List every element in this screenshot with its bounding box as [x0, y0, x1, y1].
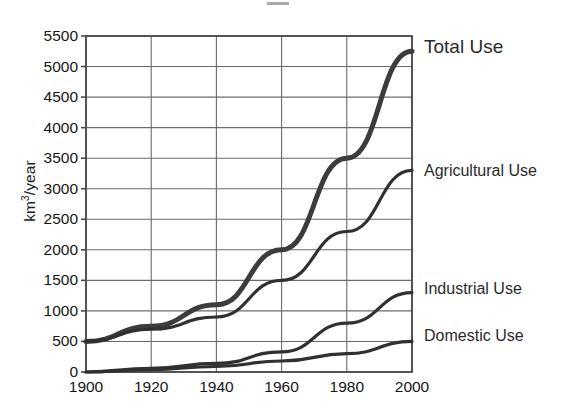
series-line-agricultural-use [86, 170, 412, 341]
series-label-industrial-use: Industrial Use [424, 280, 522, 298]
series-label-agricultural-use: Agricultural Use [424, 162, 537, 180]
plot-area [0, 0, 568, 417]
water-use-line-chart: km3/year 0500100015002000250030003500400… [0, 0, 568, 417]
series-line-industrial-use [86, 293, 412, 372]
series-label-total-use: Total Use [424, 36, 503, 58]
series-label-domestic-use: Domestic Use [424, 327, 524, 345]
